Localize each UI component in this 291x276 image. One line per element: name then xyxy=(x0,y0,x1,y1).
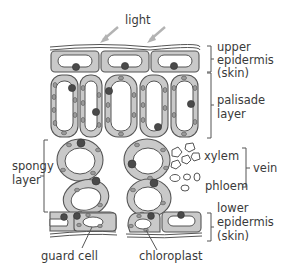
leaf-cross-section-diagram: light xyxy=(0,0,291,276)
upper-epidermis-label-3: (skin) xyxy=(217,66,249,80)
lower-epidermis xyxy=(50,212,202,238)
palisade-layer xyxy=(51,75,198,137)
palisade-layer-label-2: layer xyxy=(217,107,246,121)
upper-epidermis-label-2: epidermis xyxy=(217,53,274,67)
spongy-layer xyxy=(57,139,171,221)
vein xyxy=(170,143,200,191)
guard-cell-label: guard cell xyxy=(41,249,98,263)
upper-epidermis xyxy=(50,45,200,73)
phloem-cells xyxy=(170,173,200,191)
lower-epidermis-label-1: lower xyxy=(217,201,249,215)
phloem-label: phloem xyxy=(205,179,248,193)
palisade-layer-label-1: palisade xyxy=(217,93,265,107)
lower-epidermis-label-3: (skin) xyxy=(217,229,249,243)
xylem-label: xylem xyxy=(204,149,239,163)
vein-label: vein xyxy=(253,161,277,175)
chloroplast-label: chloroplast xyxy=(139,249,203,263)
chloroplast-pointer xyxy=(146,230,157,250)
spongy-layer-label-2: layer xyxy=(12,173,41,187)
upper-epidermis-label-1: upper xyxy=(217,40,251,54)
xylem-cells xyxy=(171,143,200,169)
light-label: light xyxy=(125,13,151,27)
spongy-layer-label-1: spongy xyxy=(12,159,54,173)
light-arrows xyxy=(100,27,165,43)
lower-epidermis-label-2: epidermis xyxy=(217,215,274,229)
